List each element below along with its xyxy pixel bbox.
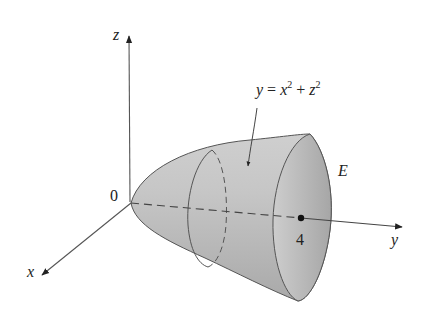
x-axis-label: x bbox=[27, 264, 34, 280]
z-axis-label: z bbox=[113, 27, 119, 43]
z-axis bbox=[129, 36, 130, 202]
region-label-E: E bbox=[338, 163, 348, 179]
eq-z-exp: 2 bbox=[316, 79, 321, 90]
surface-equation: y = x2 + z2 bbox=[256, 80, 321, 98]
eq-equals: = bbox=[263, 81, 280, 98]
paraboloid-diagram bbox=[0, 0, 429, 313]
eq-plus: + bbox=[292, 81, 309, 98]
point-y4 bbox=[298, 215, 304, 221]
origin-label: 0 bbox=[110, 188, 118, 204]
tick-label-4: 4 bbox=[296, 232, 304, 248]
x-axis bbox=[42, 203, 131, 275]
y-axis-label: y bbox=[391, 232, 398, 248]
